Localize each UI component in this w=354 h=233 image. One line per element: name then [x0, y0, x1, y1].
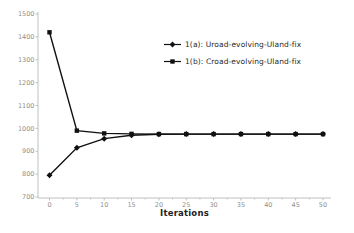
plot-area: 7008009001000110012001300140015000510152… [0, 0, 354, 233]
square-marker-icon [164, 57, 181, 66]
legend: 1(a): Uroad-evolving-Uland-fix 1(b): Cro… [164, 39, 301, 73]
square-marker [184, 132, 188, 136]
x-axis-label: Iterations [38, 208, 331, 218]
y-tick-label: 700 [22, 193, 34, 201]
diamond-marker [101, 136, 107, 142]
square-marker [157, 132, 161, 136]
square-marker [75, 128, 79, 132]
legend-label-1b: 1(b): Croad-evolving-Uland-fix [185, 57, 301, 66]
square-marker [47, 30, 51, 34]
y-tick-label: 800 [22, 170, 34, 178]
legend-item-1a: 1(a): Uroad-evolving-Uland-fix [164, 39, 301, 49]
chart-svg: 7008009001000110012001300140015000510152… [0, 0, 354, 233]
y-tick-label: 1300 [18, 56, 35, 64]
y-tick-label: 1100 [18, 102, 35, 110]
square-marker [211, 132, 215, 136]
y-tick-label: 900 [22, 147, 34, 155]
square-marker [293, 132, 297, 136]
diamond-marker-icon [164, 40, 181, 49]
square-marker [321, 132, 325, 136]
series-line [50, 134, 324, 175]
legend-label-1a: 1(a): Uroad-evolving-Uland-fix [185, 40, 301, 49]
y-tick-label: 1500 [18, 10, 35, 18]
square-marker [239, 132, 243, 136]
legend-item-1b: 1(b): Croad-evolving-Uland-fix [164, 56, 301, 66]
square-marker [102, 131, 106, 135]
square-marker [129, 132, 133, 136]
y-tick-label: 1400 [18, 33, 35, 41]
chart-screenshot: 7008009001000110012001300140015000510152… [0, 0, 354, 233]
y-tick-label: 1200 [18, 79, 35, 87]
y-tick-label: 1000 [18, 125, 35, 133]
square-marker [266, 132, 270, 136]
